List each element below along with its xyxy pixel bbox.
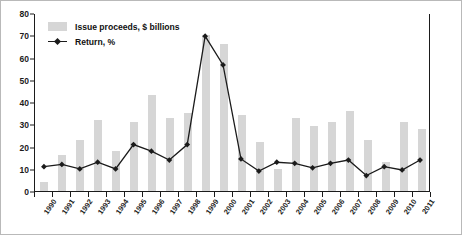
data-point-marker	[41, 164, 47, 170]
return-line-path	[44, 36, 420, 175]
data-point-marker	[149, 148, 155, 154]
x-axis-tick-mark	[268, 192, 269, 197]
data-point-marker	[417, 157, 423, 163]
x-axis-tick-mark	[430, 192, 431, 197]
chart-legend: Issue proceeds, $ billions Return, %	[48, 20, 180, 50]
data-point-marker	[95, 159, 101, 165]
x-axis-tick-label: 1990	[43, 198, 59, 216]
x-axis-tick-label: 1992	[79, 198, 95, 216]
x-axis-tick-mark	[322, 192, 323, 197]
x-axis-tick-label: 2009	[385, 198, 401, 216]
bar-swatch-icon	[48, 22, 67, 31]
x-axis-tick-mark	[196, 192, 197, 197]
x-axis-tick-mark	[52, 192, 53, 197]
data-point-marker	[328, 160, 334, 166]
x-axis-tick-label: 1999	[205, 198, 221, 216]
x-axis-tick-mark	[88, 192, 89, 197]
x-axis-tick-mark	[412, 192, 413, 197]
x-axis-tick-mark	[106, 192, 107, 197]
data-point-marker	[399, 167, 405, 173]
x-axis-tick-mark	[160, 192, 161, 197]
x-axis-tick-mark	[142, 192, 143, 197]
x-axis-tick-label: 1996	[151, 198, 167, 216]
x-axis-tick-mark	[250, 192, 251, 197]
x-axis-tick-mark	[124, 192, 125, 197]
line-diamond-marker-icon	[48, 37, 67, 46]
x-axis-tick-label: 2011	[421, 198, 436, 215]
x-axis-tick-label: 2008	[367, 198, 383, 216]
x-axis-tick-label: 1993	[97, 198, 113, 216]
x-axis-tick-mark	[34, 192, 35, 197]
data-point-marker	[381, 164, 387, 170]
data-point-marker	[220, 62, 226, 68]
x-axis-tick-label: 2007	[349, 198, 365, 216]
data-point-marker	[292, 160, 298, 166]
x-axis-tick-mark	[178, 192, 179, 197]
x-axis-tick-mark	[286, 192, 287, 197]
x-axis-tick-label: 2004	[295, 198, 311, 216]
x-axis-tick-label: 2005	[313, 198, 329, 216]
x-axis-tick-mark	[394, 192, 395, 197]
data-point-marker	[202, 33, 208, 39]
x-axis-tick-label: 1998	[187, 198, 203, 216]
data-point-marker	[59, 162, 65, 168]
data-point-marker	[310, 165, 316, 171]
x-axis-tick-mark	[376, 192, 377, 197]
legend-item-issue-proceeds: Issue proceeds, $ billions	[48, 20, 180, 33]
x-axis-tick-label: 1995	[133, 198, 149, 216]
x-axis-tick-label: 2006	[331, 198, 347, 216]
x-axis-tick-mark	[214, 192, 215, 197]
legend-item-return: Return, %	[48, 35, 180, 48]
x-axis-tick-label: 1997	[169, 198, 185, 216]
x-axis-tick-label: 2003	[277, 198, 293, 216]
x-axis-tick-mark	[358, 192, 359, 197]
data-point-marker	[77, 166, 83, 172]
legend-label-return: Return, %	[75, 37, 115, 47]
x-axis-tick-label: 2010	[403, 198, 419, 216]
x-axis-tick-mark	[70, 192, 71, 197]
x-axis-tick-label: 1994	[115, 198, 131, 216]
x-axis-tick-label: 2001	[241, 198, 257, 216]
x-axis-tick-label: 2002	[259, 198, 275, 216]
x-axis-tick-mark	[232, 192, 233, 197]
x-axis-tick-label: 1991	[61, 198, 77, 216]
x-axis-tick-label: 2000	[223, 198, 239, 216]
legend-label-issue-proceeds: Issue proceeds, $ billions	[75, 22, 180, 32]
x-axis-tick-mark	[304, 192, 305, 197]
x-axis-tick-mark	[340, 192, 341, 197]
data-point-marker	[274, 159, 280, 165]
chart-figure: 01020304050607080 1990199119921993199419…	[0, 0, 462, 235]
